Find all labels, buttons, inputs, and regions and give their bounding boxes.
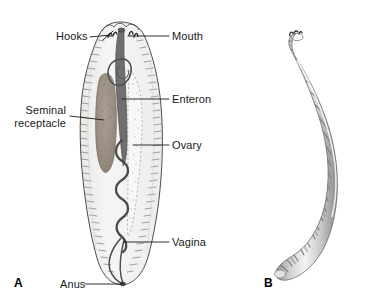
label-anus: Anus [60, 278, 85, 291]
label-seminal-receptacle: Seminal receptacle [0, 104, 66, 130]
label-ovary: Ovary [172, 139, 202, 152]
panel-letter-a: A [14, 276, 23, 290]
label-vagina: Vagina [172, 236, 206, 249]
mouth-opening [118, 28, 125, 32]
posterior-sucker-b [275, 270, 286, 278]
panel-b-illustration [275, 31, 338, 280]
label-hooks: Hooks [56, 30, 88, 43]
seminal-receptacle-organ [96, 74, 117, 173]
anatomy-figure: Hooks Mouth Seminal receptacle Enteron O… [0, 0, 368, 303]
figure-illustration [0, 0, 368, 303]
label-seminal-receptacle-line2: receptacle [0, 117, 66, 130]
label-enteron: Enteron [172, 93, 211, 106]
label-mouth: Mouth [172, 30, 203, 43]
panel-a-illustration [80, 22, 162, 286]
panel-letter-b: B [264, 276, 273, 290]
label-seminal-receptacle-line1: Seminal [0, 104, 66, 117]
